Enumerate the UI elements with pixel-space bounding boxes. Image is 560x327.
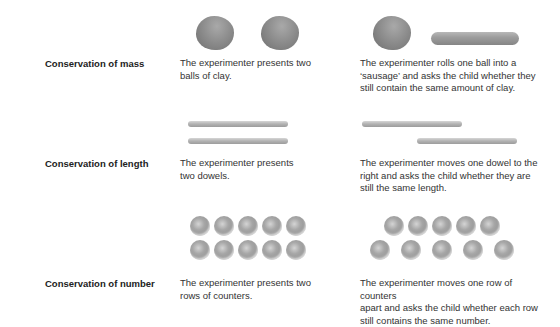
dowel-icon xyxy=(362,121,462,127)
desc-line: right and asks the child whether they ar… xyxy=(360,170,550,183)
desc-line: ‘sausage’ and asks the child whether the… xyxy=(360,70,550,83)
desc-line: The experimenter presents xyxy=(180,157,330,170)
row-label: Conservation of mass xyxy=(45,58,144,69)
counter-icon xyxy=(262,216,282,236)
counter-icon xyxy=(262,240,282,260)
before-description: The experimenter presents two dowels. xyxy=(180,157,330,182)
counter-icon xyxy=(370,240,390,260)
desc-line: rows of counters. xyxy=(180,290,330,303)
counter-icon xyxy=(214,216,234,236)
counter-icon xyxy=(384,216,404,236)
after-description: The experimenter moves one dowel to the … xyxy=(360,157,550,195)
counter-icon xyxy=(408,216,428,236)
desc-line: two dowels. xyxy=(180,170,330,183)
counter-icon xyxy=(286,240,306,260)
desc-line: still contains the same number. xyxy=(360,315,550,327)
counter-icon xyxy=(238,216,258,236)
desc-line: The experimenter presents two xyxy=(180,57,330,70)
clay-ball-icon xyxy=(373,16,411,50)
counter-icon xyxy=(238,240,258,260)
dowel-icon xyxy=(417,138,517,144)
desc-line: still the same length. xyxy=(360,182,550,195)
before-description: The experimenter presents two balls of c… xyxy=(180,57,330,82)
desc-line: apart and asks the child whether each ro… xyxy=(360,302,550,315)
dowel-icon xyxy=(188,121,288,127)
counter-icon xyxy=(190,240,210,260)
desc-line: The experimenter presents two xyxy=(180,277,330,290)
after-description: The experimenter rolls one ball into a ‘… xyxy=(360,57,550,95)
clay-ball-icon xyxy=(196,16,234,50)
clay-ball-icon xyxy=(261,16,299,50)
row-label: Conservation of length xyxy=(45,158,148,169)
counter-icon xyxy=(494,240,514,260)
counter-icon xyxy=(190,216,210,236)
counter-icon xyxy=(214,240,234,260)
counter-icon xyxy=(286,216,306,236)
counter-icon xyxy=(463,240,483,260)
desc-line: The experimenter moves one row of counte… xyxy=(360,277,550,302)
desc-line: The experimenter moves one dowel to the xyxy=(360,157,550,170)
counter-icon xyxy=(432,240,452,260)
clay-sausage-icon xyxy=(431,32,519,45)
before-description: The experimenter presents two rows of co… xyxy=(180,277,330,302)
desc-line: still contain the same amount of clay. xyxy=(360,82,550,95)
desc-line: The experimenter rolls one ball into a xyxy=(360,57,550,70)
counter-icon xyxy=(480,216,500,236)
counter-icon xyxy=(401,240,421,260)
dowel-icon xyxy=(188,138,288,144)
after-description: The experimenter moves one row of counte… xyxy=(360,277,550,327)
counter-icon xyxy=(456,216,476,236)
row-label: Conservation of number xyxy=(45,278,155,289)
counter-icon xyxy=(432,216,452,236)
desc-line: balls of clay. xyxy=(180,70,330,83)
